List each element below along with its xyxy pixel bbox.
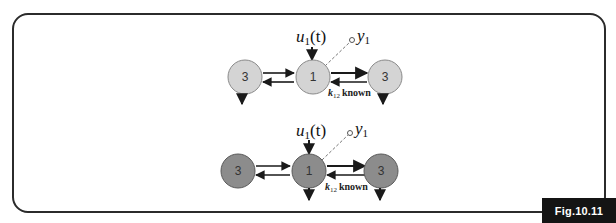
output-dashed-line (325, 42, 350, 66)
compartment-diagrams: u1(t) y1 3 1 3 k12known u1(t) y1 (0, 0, 616, 223)
k12-known-annotation: k12known (328, 87, 371, 100)
node-right-label: 3 (382, 70, 389, 84)
node-right-label: 3 (378, 164, 385, 178)
node-center-label: 1 (306, 164, 313, 178)
bottom-diagram: u1(t) y1 3 1 3 k12known (221, 119, 398, 200)
node-center-label: 1 (310, 70, 317, 84)
node-left-label: 3 (242, 70, 249, 84)
k12-known-annotation: k12known (325, 181, 368, 194)
figure-number-badge: Fig.10.11 (542, 198, 616, 223)
output-sample-point (348, 131, 353, 136)
top-diagram: u1(t) y1 3 1 3 k12known (228, 26, 402, 104)
input-label: u1(t) (296, 121, 326, 141)
output-label: y1 (355, 26, 370, 46)
input-label: u1(t) (296, 27, 326, 47)
node-left-label: 3 (235, 164, 242, 178)
output-sample-point (350, 38, 355, 43)
output-label: y1 (353, 119, 368, 139)
